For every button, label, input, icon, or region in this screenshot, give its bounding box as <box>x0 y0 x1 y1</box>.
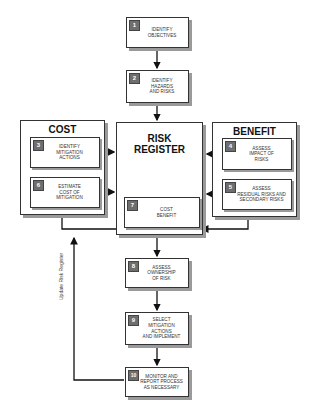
step-estimate-cost: 6 Estimate Cost of Mitigation <box>30 177 100 208</box>
update-risk-register-label: Update Risk Register <box>58 230 64 300</box>
step-assess-residual: 5 Assess Residual Risks and Secondary Ri… <box>222 179 292 210</box>
step-identify-hazards: 2 Identify Hazards and Risks <box>126 70 189 103</box>
cost-title: COST <box>21 124 104 135</box>
step-label: Assess Impact of Risks <box>235 139 288 169</box>
step-select-mitigation: 9 Select Mitigation Actions and Implemen… <box>125 312 189 345</box>
step-label: Identify Objectives <box>139 18 185 47</box>
benefit-title: BENEFIT <box>213 126 296 137</box>
risk-register-title: RISK REGISTER <box>117 133 202 155</box>
step-label: Identify Hazards and Risks <box>139 71 185 102</box>
step-assess-impact: 4 Assess Impact of Risks <box>222 138 292 170</box>
step-label: Monitor and Report Process as Necessary <box>138 368 185 396</box>
step-label: Assess Ownership of Risk <box>138 259 185 287</box>
step-identify-mitigation: 3 Identify Mitigation Actions <box>30 137 100 168</box>
step-identify-objectives: 1 Identify Objectives <box>126 17 189 48</box>
step-label: Cost Benefit <box>137 198 196 227</box>
step-cost-benefit: 7 Cost Benefit <box>124 197 200 228</box>
step-monitor-report: 10 Monitor and Report Process as Necessa… <box>125 367 189 397</box>
step-label: Identify Mitigation Actions <box>43 138 96 167</box>
step-assess-ownership: 8 Assess Ownership of Risk <box>125 258 189 288</box>
step-label: Assess Residual Risks and Secondary Risk… <box>235 180 288 209</box>
step-label: Estimate Cost of Mitigation <box>43 178 96 207</box>
step-label: Select Mitigation Actions and Implement <box>138 313 185 344</box>
